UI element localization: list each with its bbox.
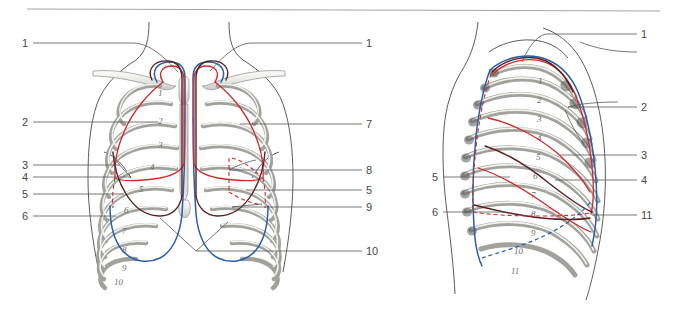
label-lateral-right-1: 1 bbox=[641, 29, 647, 40]
svg-text:3: 3 bbox=[536, 114, 542, 124]
svg-text:5: 5 bbox=[139, 184, 144, 194]
svg-text:7: 7 bbox=[122, 226, 127, 236]
figure-canvas: 1 2 3 4 5 6 7 8 9 10 bbox=[0, 0, 687, 311]
anatomy-illustration: 1 2 3 4 5 6 7 8 9 10 bbox=[0, 0, 687, 311]
anterior-panel: 1 2 3 4 5 6 7 8 9 10 bbox=[33, 22, 362, 288]
label-anterior-left-1: 1 bbox=[22, 38, 28, 49]
clavicle-left bbox=[93, 70, 176, 89]
svg-text:2: 2 bbox=[537, 95, 542, 105]
label-anterior-right-8: 8 bbox=[366, 165, 372, 176]
label-lateral-right-2: 2 bbox=[641, 102, 647, 113]
svg-text:9: 9 bbox=[122, 263, 127, 273]
svg-text:1: 1 bbox=[538, 76, 543, 86]
clavicle-right bbox=[202, 70, 285, 89]
label-anterior-left-5: 5 bbox=[22, 189, 28, 200]
label-anterior-left-4: 4 bbox=[22, 172, 28, 183]
svg-text:5: 5 bbox=[536, 152, 541, 162]
svg-text:6: 6 bbox=[124, 205, 129, 215]
label-anterior-right-7: 7 bbox=[366, 119, 372, 130]
svg-text:11: 11 bbox=[511, 266, 519, 276]
svg-text:1: 1 bbox=[158, 88, 163, 98]
lateral-panel: 1 2 3 4 5 6 7 8 9 10 11 bbox=[443, 22, 637, 300]
label-lateral-right-11: 11 bbox=[641, 210, 652, 221]
svg-text:4: 4 bbox=[150, 162, 155, 172]
svg-text:9: 9 bbox=[531, 228, 536, 238]
label-anterior-right-9: 9 bbox=[366, 202, 372, 213]
recess-dashed-anterior bbox=[113, 158, 266, 208]
svg-text:10: 10 bbox=[114, 277, 124, 287]
svg-text:3: 3 bbox=[157, 140, 163, 150]
label-lateral-right-4: 4 bbox=[641, 175, 647, 186]
label-anterior-right-10: 10 bbox=[366, 246, 378, 257]
label-lateral-left-5: 5 bbox=[432, 172, 438, 183]
label-anterior-left-2: 2 bbox=[22, 117, 28, 128]
label-lateral-right-3: 3 bbox=[641, 150, 647, 161]
label-anterior-right-1: 1 bbox=[366, 38, 372, 49]
label-anterior-right-5: 5 bbox=[366, 185, 372, 196]
label-anterior-left-6: 6 bbox=[22, 211, 28, 222]
label-lateral-left-6: 6 bbox=[432, 207, 438, 218]
top-rule bbox=[27, 9, 660, 11]
label-anterior-left-3: 3 bbox=[22, 160, 28, 171]
svg-text:2: 2 bbox=[158, 116, 163, 126]
